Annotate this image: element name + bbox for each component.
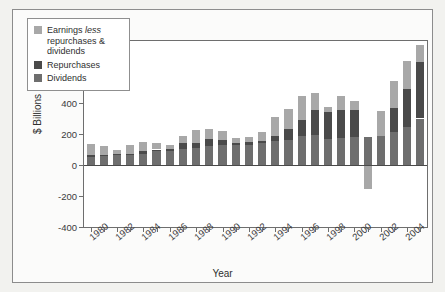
y-axis-tick xyxy=(79,165,84,166)
bar-group xyxy=(179,41,187,227)
bar-segment-dividends xyxy=(218,145,226,165)
bar-segment-earnings xyxy=(324,107,332,112)
bar-group xyxy=(218,41,226,227)
bar-group xyxy=(324,41,332,227)
bar-segment-earnings xyxy=(284,109,292,129)
x-axis-tick xyxy=(130,227,131,232)
bar-group xyxy=(205,41,213,227)
bar-segment-dividends xyxy=(337,138,345,165)
y-axis-tick xyxy=(79,103,84,104)
bar-segment-dividends xyxy=(139,154,147,165)
bar-segment-repurchases xyxy=(298,120,306,136)
bar-segment-dividends xyxy=(113,155,121,165)
bar-segment-dividends xyxy=(284,140,292,165)
bar-segment-earnings xyxy=(113,150,121,155)
bar-segment-repurchases xyxy=(100,155,108,156)
bar-segment-repurchases xyxy=(324,112,332,139)
x-axis-tick xyxy=(288,227,289,232)
bar-segment-dividends xyxy=(126,154,134,165)
bar-segment-dividends xyxy=(377,136,385,165)
bar-segment-dividends xyxy=(350,137,358,165)
zero-axis-line xyxy=(84,165,427,166)
bar-segment-earnings xyxy=(87,144,95,155)
bar-segment-repurchases xyxy=(403,89,411,127)
x-axis-tick xyxy=(341,227,342,232)
bar-segment-dividends xyxy=(166,151,174,165)
y-axis-title: $ Billions xyxy=(32,94,43,134)
bar-group xyxy=(403,41,411,227)
bar-segment-earnings xyxy=(258,132,266,141)
x-axis-tick xyxy=(368,227,369,232)
bar-segment-earnings xyxy=(152,143,160,149)
bar-segment-dividends xyxy=(324,139,332,165)
bar-segment-repurchases xyxy=(192,143,200,149)
bar-group xyxy=(390,41,398,227)
bar-segment-earnings xyxy=(271,117,279,136)
bar-segment-earnings xyxy=(403,61,411,89)
bar-group xyxy=(337,41,345,227)
bar-segment-earnings xyxy=(166,145,174,149)
bar-segment-earnings xyxy=(232,138,240,142)
y-axis-tick xyxy=(79,134,84,135)
bar-segment-dividends xyxy=(245,145,253,165)
bar-segment-dividends xyxy=(152,151,160,165)
plot-area: 8006004002000-200-4001980198219841986198… xyxy=(83,40,428,228)
bar-group xyxy=(298,41,306,227)
bar-segment-repurchases xyxy=(232,143,240,145)
legend-item: Repurchases xyxy=(34,60,121,71)
bar-segment-repurchases xyxy=(245,142,253,144)
bars-layer xyxy=(84,41,427,227)
bar-group xyxy=(139,41,147,227)
bar-segment-earnings xyxy=(192,130,200,142)
bar-segment-repurchases xyxy=(350,110,358,137)
bar-group xyxy=(192,41,200,227)
bar-segment-repurchases xyxy=(87,155,95,157)
bar-segment-repurchases xyxy=(113,154,121,155)
bar-segment-earnings-negative xyxy=(364,165,372,189)
bar-segment-earnings xyxy=(311,93,319,110)
x-axis-tick xyxy=(420,227,421,232)
bar-segment-earnings xyxy=(416,45,424,62)
bar-segment-earnings xyxy=(100,146,108,155)
bar-segment-repurchases xyxy=(205,139,213,146)
y-axis-tick-label: 200 xyxy=(61,129,77,140)
legend-item: Earnings less repurchases & dividends xyxy=(34,25,121,57)
bar-segment-earnings xyxy=(377,111,385,135)
legend-label: Repurchases xyxy=(47,60,100,71)
bar-group xyxy=(350,41,358,227)
x-axis-tick xyxy=(183,227,184,232)
bar-group xyxy=(152,41,160,227)
bar-segment-repurchases xyxy=(152,150,160,152)
bar-segment-repurchases xyxy=(166,149,174,151)
bar-group xyxy=(377,41,385,227)
bar-segment-dividends xyxy=(364,137,372,165)
bar-segment-dividends xyxy=(403,127,411,165)
bar-segment-dividends xyxy=(100,156,108,165)
bar-segment-dividends xyxy=(390,132,398,165)
legend-item: Dividends xyxy=(34,73,121,84)
x-axis-tick xyxy=(315,227,316,232)
bar-segment-repurchases xyxy=(139,151,147,154)
x-axis-tick xyxy=(394,227,395,232)
bar-segment-dividends xyxy=(271,141,279,165)
bar-segment-dividends xyxy=(179,149,187,165)
legend-swatch-icon xyxy=(34,26,42,34)
bar-group xyxy=(284,41,292,227)
bar-segment-dividends xyxy=(87,157,95,165)
bar-segment-earnings xyxy=(337,96,345,110)
bar-segment-repurchases xyxy=(284,129,292,140)
bar-segment-dividends xyxy=(205,146,213,165)
bar-segment-earnings xyxy=(390,81,398,108)
bar-segment-dividends xyxy=(298,136,306,165)
y-axis-tick-label: 0 xyxy=(72,160,77,171)
y-axis-tick-label: -400 xyxy=(58,222,77,233)
bar-segment-repurchases xyxy=(416,62,424,119)
legend-label: Dividends xyxy=(47,73,87,84)
x-axis-title: Year xyxy=(13,268,432,279)
x-axis-tick xyxy=(209,227,210,232)
chart-legend: Earnings less repurchases & dividendsRep… xyxy=(27,18,130,91)
bar-segment-earnings xyxy=(179,136,187,144)
bar-segment-earnings xyxy=(218,131,226,140)
bar-segment-repurchases xyxy=(179,143,187,149)
bar-group xyxy=(271,41,279,227)
